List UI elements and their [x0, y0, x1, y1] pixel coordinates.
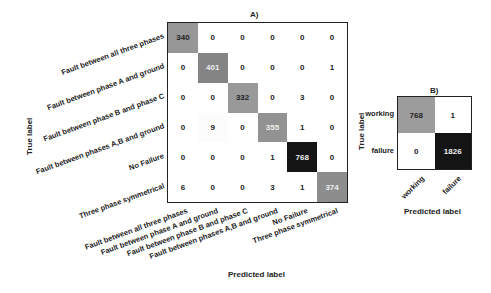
matrix-cell: 332 [228, 83, 258, 113]
y-tick-label: No Failure [128, 151, 166, 172]
matrix-cell: 0 [168, 83, 198, 113]
matrix-cell: 0 [228, 172, 258, 202]
matrix-cell: 9 [198, 113, 228, 143]
matrix-cell: 0 [228, 113, 258, 143]
x-tick-label: failure [441, 174, 463, 196]
matrix-cell: 0 [198, 172, 228, 202]
matrix-cell: 374 [317, 172, 347, 202]
matrix-cell: 6 [168, 172, 198, 202]
matrix-cell: 0 [287, 23, 317, 53]
matrix-cell: 0 [198, 83, 228, 113]
matrix-cell: 0 [198, 142, 228, 172]
matrix-a-title: A) [250, 10, 258, 19]
matrix-cell: 0 [168, 142, 198, 172]
confusion-matrix-a: 3400000004010001003320300903551000017680… [167, 22, 348, 203]
matrix-cell: 0 [317, 23, 347, 53]
matrix-b-x-axis-title: Predicted label [404, 207, 461, 216]
matrix-cell: 340 [168, 23, 198, 53]
matrix-cell: 1 [317, 53, 347, 83]
matrix-cell: 0 [228, 53, 258, 83]
matrix-cell: 355 [258, 113, 288, 143]
confusion-matrix-b: 768101826 [397, 96, 472, 170]
matrix-cell: 0 [317, 113, 347, 143]
matrix-cell: 0 [258, 23, 288, 53]
matrix-cell: 0 [258, 83, 288, 113]
matrix-cell: 3 [258, 172, 288, 202]
matrix-cell: 0 [168, 113, 198, 143]
matrix-cell: 0 [398, 133, 435, 169]
matrix-cell: 1826 [435, 133, 472, 169]
matrix-cell: 401 [198, 53, 228, 83]
matrix-a-x-axis-title: Predicted label [228, 270, 285, 279]
matrix-cell: 0 [258, 53, 288, 83]
y-tick-label: working [365, 109, 394, 118]
matrix-a-y-axis-title: True label [25, 118, 34, 155]
matrix-cell: 768 [287, 142, 317, 172]
matrix-cell: 1 [287, 172, 317, 202]
matrix-cell: 1 [435, 97, 472, 133]
matrix-cell: 0 [228, 23, 258, 53]
matrix-cell: 3 [287, 83, 317, 113]
matrix-cell: 0 [168, 53, 198, 83]
matrix-cell: 768 [398, 97, 435, 133]
y-tick-label: failure [371, 146, 394, 155]
matrix-b-title: B) [430, 86, 438, 95]
matrix-b-y-axis-title: True label [357, 113, 366, 150]
matrix-cell: 0 [228, 142, 258, 172]
matrix-cell: 0 [198, 23, 228, 53]
matrix-cell: 0 [317, 142, 347, 172]
matrix-cell: 1 [258, 142, 288, 172]
matrix-cell: 0 [287, 53, 317, 83]
matrix-cell: 0 [317, 83, 347, 113]
y-tick-label: Three phase symmetrical [78, 181, 166, 220]
x-tick-label: working [399, 174, 426, 201]
matrix-cell: 1 [287, 113, 317, 143]
